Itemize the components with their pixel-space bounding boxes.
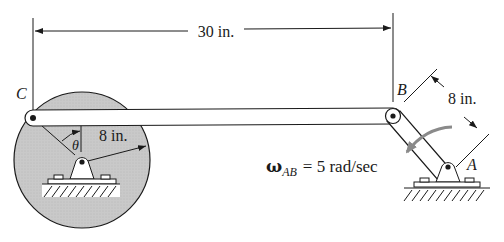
omega-value: = 5 rad/sec (303, 157, 378, 176)
dimension-ab-label: 8 in. (448, 90, 476, 107)
omega-label: ωAB= 5 rad/sec (266, 156, 378, 179)
pin-b (386, 109, 401, 124)
omega-symbol: ω (266, 156, 282, 176)
linkage-diagram: 30 in. C θ 8 in. (0, 0, 504, 242)
omega-subscript: AB (281, 165, 297, 179)
pin-c (30, 115, 36, 121)
point-c-label: C (16, 85, 27, 102)
connecting-rod-cb (25, 108, 401, 126)
point-a-label: A (466, 156, 477, 173)
theta-label: θ (72, 138, 79, 153)
pivot-a-support (404, 163, 490, 201)
radius-dimension-label: 8 in. (99, 127, 127, 144)
point-b-label: B (397, 81, 407, 98)
dimension-30in-label: 30 in. (198, 23, 234, 40)
